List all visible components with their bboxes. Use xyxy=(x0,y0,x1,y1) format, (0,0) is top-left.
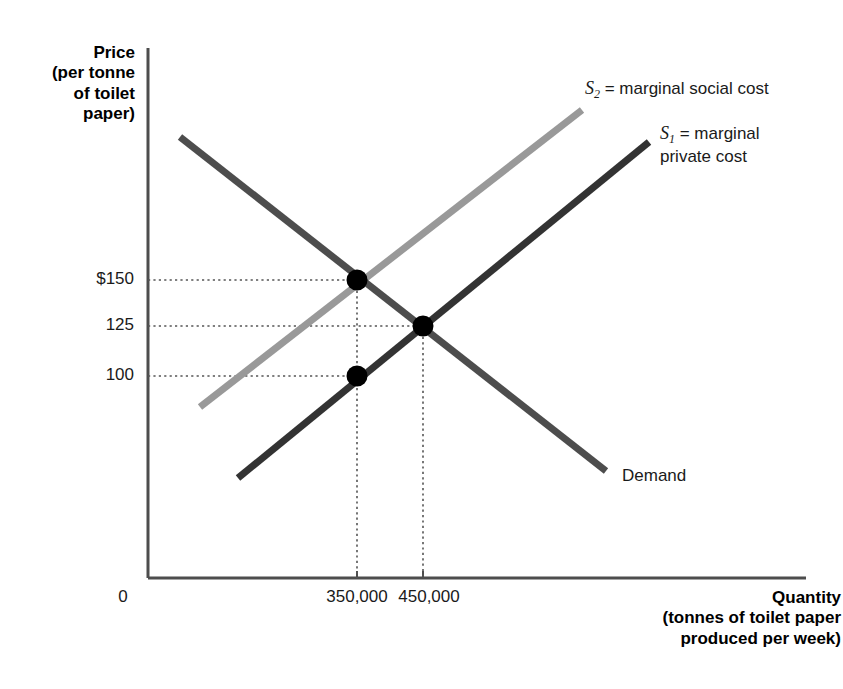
y-axis-tick-label-125: 125 xyxy=(72,315,134,335)
point-private-cost-at-optimum xyxy=(347,366,368,387)
y-axis-title: Price (per tonne of toilet paper) xyxy=(0,43,135,125)
curve-label-s2: S2 = marginal social cost xyxy=(585,78,769,102)
y-axis-tick-label-100: 100 xyxy=(72,365,134,385)
x-axis-tick-label-450000: 450,000 xyxy=(377,587,481,607)
chart-curves xyxy=(180,110,649,478)
economics-externality-chart: Price (per tonne of toilet paper) Quanti… xyxy=(0,0,843,689)
curve-label-s2-text: = marginal social cost xyxy=(600,79,769,98)
chart-leader-lines xyxy=(148,280,423,578)
curve-label-s2-symbol: S xyxy=(585,78,594,98)
x-axis-tick-label-zero: 0 xyxy=(112,587,134,607)
curve-s1-marginal-private-cost xyxy=(238,142,649,478)
curve-label-s1: S1 = marginalprivate cost xyxy=(660,123,760,167)
curve-label-demand: Demand xyxy=(622,466,686,486)
curve-label-s1-symbol: S xyxy=(660,123,669,143)
curve-s2-marginal-social-cost xyxy=(200,110,582,407)
point-market-equilibrium xyxy=(413,316,434,337)
curve-label-s1-text: = marginal xyxy=(675,124,760,143)
chart-points xyxy=(347,270,434,387)
curve-label-s1-text-line2: private cost xyxy=(660,147,747,166)
y-axis-tick-label-150: $150 xyxy=(72,269,134,289)
curve-demand xyxy=(180,137,606,471)
point-social-optimum xyxy=(347,270,368,291)
x-axis-title: Quantity (tonnes of toilet paper produce… xyxy=(595,588,841,649)
